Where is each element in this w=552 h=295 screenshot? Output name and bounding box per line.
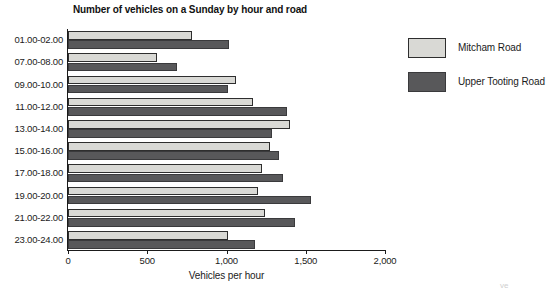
- bar-group: [68, 96, 385, 118]
- bar-upper-tooting-road: [68, 218, 295, 227]
- bar-mitcham-road: [68, 31, 192, 40]
- bar-upper-tooting-road: [68, 63, 177, 72]
- bar-mitcham-road: [68, 187, 258, 196]
- bar-group: [68, 229, 385, 251]
- scan-artifacts: ve: [0, 281, 552, 295]
- plot-area: [68, 29, 385, 251]
- bar-upper-tooting-road: [68, 40, 229, 49]
- x-axis-tick-label: 1,500: [294, 255, 317, 266]
- scan-artifact: ve: [500, 281, 508, 290]
- x-axis-tick: [306, 250, 307, 254]
- x-axis-tick-label: 1,000: [215, 255, 238, 266]
- y-axis-label: 01.00-02.00: [0, 34, 63, 45]
- x-axis-tick-label: 2,000: [374, 255, 397, 266]
- bar-mitcham-road: [68, 231, 228, 240]
- x-axis-tick: [68, 250, 69, 254]
- legend-label: Upper Tooting Road: [458, 76, 545, 87]
- bar-group: [68, 162, 385, 184]
- bar-mitcham-road: [68, 209, 265, 218]
- chart-title: Number of vehicles on a Sunday by hour a…: [0, 4, 380, 15]
- bar-upper-tooting-road: [68, 196, 311, 205]
- legend-swatch-light: [408, 38, 446, 58]
- bar-group: [68, 140, 385, 162]
- bar-group: [68, 207, 385, 229]
- legend-label: Mitcham Road: [458, 42, 521, 53]
- bar-mitcham-road: [68, 53, 157, 62]
- bar-group: [68, 184, 385, 206]
- bar-mitcham-road: [68, 98, 253, 107]
- x-axis-tick: [147, 250, 148, 254]
- y-axis-label: 09.00-10.00: [0, 79, 63, 90]
- bar-upper-tooting-road: [68, 85, 228, 94]
- bar-upper-tooting-road: [68, 107, 287, 116]
- bar-group: [68, 51, 385, 73]
- bar-mitcham-road: [68, 120, 290, 129]
- legend-swatch-dark: [408, 72, 446, 92]
- y-axis-label: 19.00-20.00: [0, 190, 63, 201]
- y-axis-label: 13.00-14.00: [0, 123, 63, 134]
- x-axis-tick: [385, 250, 386, 254]
- y-axis-label: 15.00-16.00: [0, 145, 63, 156]
- bar-chart: Number of vehicles on a Sunday by hour a…: [0, 0, 552, 295]
- bar-group: [68, 118, 385, 140]
- y-axis-label: 11.00-12.00: [0, 101, 63, 112]
- x-axis-title: Vehicles per hour: [68, 270, 385, 281]
- bar-upper-tooting-road: [68, 151, 279, 160]
- y-axis-label: 17.00-18.00: [0, 167, 63, 178]
- bar-upper-tooting-road: [68, 129, 272, 138]
- y-axis-label: 21.00-22.00: [0, 212, 63, 223]
- x-axis-tick-label: 0: [65, 255, 70, 266]
- y-axis-label: 23.00-24.00: [0, 234, 63, 245]
- bar-group: [68, 73, 385, 95]
- bar-upper-tooting-road: [68, 174, 283, 183]
- bar-group: [68, 29, 385, 51]
- y-axis-label: 07.00-08.00: [0, 56, 63, 67]
- x-axis-tick-label: 500: [140, 255, 155, 266]
- bar-mitcham-road: [68, 164, 262, 173]
- bar-mitcham-road: [68, 142, 270, 151]
- bar-upper-tooting-road: [68, 240, 255, 249]
- bar-mitcham-road: [68, 76, 236, 85]
- x-axis-tick: [227, 250, 228, 254]
